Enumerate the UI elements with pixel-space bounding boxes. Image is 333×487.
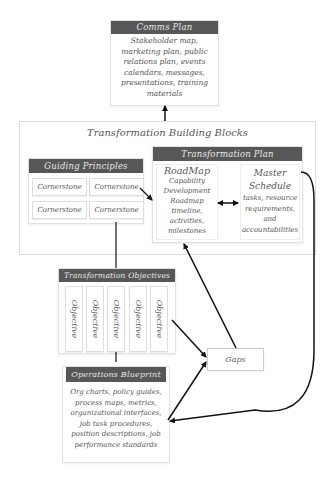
arrow-blueprint-to-gaps — [168, 362, 206, 420]
transformation-objectives-title: Transformation Objectives — [59, 269, 175, 282]
transformation-plan-card: Transformation Plan RoadMap Capability D… — [152, 146, 303, 243]
guiding-principles-title: Guiding Principles — [29, 159, 143, 173]
cornerstone-4: Cornerstone — [89, 201, 144, 219]
operations-blueprint-title: Operations Blueprint — [66, 367, 166, 382]
cornerstone-3: Cornerstone — [32, 201, 87, 219]
objective-4: Objective — [129, 286, 147, 352]
operations-blueprint-card: Operations Blueprint Org charts, policy … — [62, 366, 170, 463]
master-schedule-section: Master Schedule tasks, resource requirem… — [240, 164, 300, 240]
transformation-plan-title: Transformation Plan — [153, 147, 302, 161]
objective-5: Objective — [150, 286, 168, 352]
master-schedule-title: Master Schedule — [241, 167, 299, 193]
roadmap-body: Capability Development Roadmap timeline,… — [157, 176, 217, 236]
arrow-gaps-to-roadmap — [184, 244, 236, 348]
gaps-box: Gaps — [207, 348, 264, 371]
guiding-principles-card: Guiding Principles Cornerstone Cornersto… — [28, 158, 144, 224]
comms-plan-title: Comms Plan — [111, 21, 218, 34]
transformation-objectives-card: Transformation Objectives Objective Obje… — [58, 268, 176, 354]
comms-plan-card: Comms Plan Stakeholder map, marketing pl… — [110, 20, 219, 106]
cornerstone-1: Cornerstone — [32, 178, 87, 196]
arrow-objectives-to-gaps — [172, 320, 206, 357]
cornerstone-2: Cornerstone — [89, 178, 144, 196]
master-schedule-body: tasks, resource requirements, and accoun… — [241, 193, 299, 235]
objective-2: Objective — [86, 286, 104, 352]
objective-3: Objective — [107, 286, 125, 352]
gaps-label: Gaps — [208, 349, 263, 370]
roadmap-section: RoadMap Capability Development Roadmap t… — [156, 164, 218, 240]
operations-blueprint-body: Org charts, policy guides, process maps,… — [63, 382, 169, 455]
comms-plan-body: Stakeholder map, marketing plan, public … — [111, 34, 218, 101]
building-blocks-title: Transformation Building Blocks — [20, 127, 315, 138]
objective-1: Objective — [65, 286, 83, 352]
roadmap-title: RoadMap — [157, 165, 217, 176]
